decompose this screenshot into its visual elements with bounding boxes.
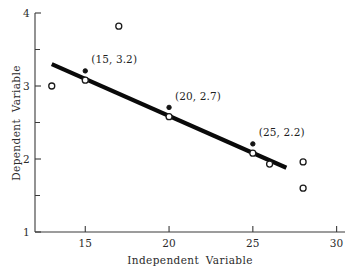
data-point	[116, 23, 122, 29]
point-annotation: (15, 3.2)	[91, 53, 137, 65]
y-axis-title: Dependent Variable	[10, 65, 22, 181]
data-point	[267, 161, 273, 167]
fit-markers-group	[83, 69, 255, 146]
y-axis-tick-label: 1	[17, 226, 30, 238]
point-annotation: (25, 2.2)	[259, 126, 305, 138]
x-axis-title: Independent Variable	[127, 254, 253, 266]
data-points-group	[49, 23, 306, 191]
data-point	[250, 150, 256, 156]
data-point	[300, 185, 306, 191]
y-axis-tick-label: 4	[17, 7, 30, 19]
data-point	[300, 159, 306, 165]
axes-group	[35, 13, 345, 232]
fit-point-marker	[167, 105, 171, 109]
x-axis-tick-label: 30	[330, 237, 344, 249]
fit-point-marker	[83, 69, 87, 73]
x-axis-tick-label: 25	[246, 237, 260, 249]
point-annotation: (20, 2.7)	[175, 90, 221, 102]
data-point	[166, 114, 172, 120]
fit-point-marker	[251, 142, 255, 146]
x-axis-tick-label: 15	[78, 237, 92, 249]
x-axis-tick-label: 20	[162, 237, 176, 249]
data-point	[49, 83, 55, 89]
data-point	[82, 77, 88, 83]
